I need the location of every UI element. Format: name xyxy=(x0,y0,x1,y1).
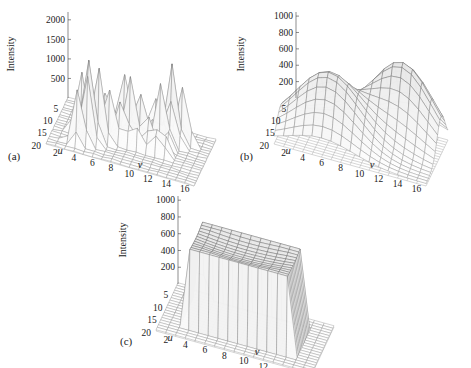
svg-text:Intensity: Intensity xyxy=(235,37,246,72)
svg-text:1000: 1000 xyxy=(46,54,65,64)
svg-text:2: 2 xyxy=(281,148,286,158)
svg-text:400: 400 xyxy=(279,60,294,70)
svg-text:4: 4 xyxy=(183,340,188,350)
svg-text:v: v xyxy=(370,159,375,170)
svg-text:u: u xyxy=(167,332,172,343)
svg-text:15: 15 xyxy=(37,128,47,138)
svg-text:10: 10 xyxy=(239,356,249,366)
svg-text:Intensity: Intensity xyxy=(117,223,128,258)
svg-text:20: 20 xyxy=(142,328,152,338)
svg-text:6: 6 xyxy=(319,158,324,168)
svg-text:6: 6 xyxy=(202,345,207,355)
panel-c-caption: (c) xyxy=(120,335,132,347)
svg-text:10: 10 xyxy=(125,169,135,179)
svg-text:6: 6 xyxy=(90,158,95,168)
svg-text:200: 200 xyxy=(279,77,294,87)
panel-b-caption: (b) xyxy=(240,150,253,162)
svg-text:1500: 1500 xyxy=(46,35,65,45)
svg-text:200: 200 xyxy=(161,262,176,272)
svg-text:20: 20 xyxy=(260,141,270,151)
panel-a-surface-plot: 500100015002000Intensity5101520u16141210… xyxy=(0,2,236,180)
svg-text:600: 600 xyxy=(279,44,294,54)
panel-a-caption: (a) xyxy=(8,150,20,162)
svg-text:1000: 1000 xyxy=(274,11,293,21)
svg-text:500: 500 xyxy=(51,74,66,84)
panel-a-svg: 500100015002000Intensity5101520u16141210… xyxy=(0,2,236,180)
svg-text:12: 12 xyxy=(143,174,153,184)
svg-text:4: 4 xyxy=(300,153,305,163)
svg-text:800: 800 xyxy=(161,212,176,222)
svg-text:14: 14 xyxy=(393,179,403,189)
figure-three-surface-plots: 500100015002000Intensity5101520u16141210… xyxy=(0,0,471,368)
svg-text:10: 10 xyxy=(153,303,163,313)
panel-c-surface-plot: 2004006008001000Intensity5101520u1614121… xyxy=(112,186,360,366)
svg-text:u: u xyxy=(285,145,290,156)
svg-text:v: v xyxy=(255,346,260,357)
svg-text:10: 10 xyxy=(355,169,365,179)
svg-text:2: 2 xyxy=(53,148,58,158)
svg-text:5: 5 xyxy=(282,104,287,114)
svg-text:400: 400 xyxy=(161,246,176,256)
svg-text:5: 5 xyxy=(54,104,59,114)
svg-text:2000: 2000 xyxy=(46,15,65,25)
svg-text:10: 10 xyxy=(43,116,53,126)
svg-text:1000: 1000 xyxy=(156,195,175,205)
svg-text:600: 600 xyxy=(161,229,176,239)
panel-c-svg: 2004006008001000Intensity5101520u1614121… xyxy=(112,186,360,366)
svg-text:Intensity: Intensity xyxy=(5,37,16,72)
svg-text:8: 8 xyxy=(108,163,113,173)
svg-text:8: 8 xyxy=(338,163,343,173)
svg-text:12: 12 xyxy=(259,362,269,368)
panel-b-surface-plot: 2004006008001000Intensity5101520u1614121… xyxy=(232,2,471,180)
svg-text:5: 5 xyxy=(164,290,169,300)
svg-text:12: 12 xyxy=(374,174,384,184)
svg-text:15: 15 xyxy=(265,128,275,138)
svg-text:u: u xyxy=(57,145,62,156)
svg-text:15: 15 xyxy=(147,315,157,325)
svg-text:10: 10 xyxy=(271,116,281,126)
svg-text:16: 16 xyxy=(412,184,422,194)
svg-text:4: 4 xyxy=(71,153,76,163)
svg-text:20: 20 xyxy=(32,141,42,151)
svg-text:2: 2 xyxy=(163,335,168,345)
svg-text:v: v xyxy=(138,159,143,170)
svg-text:800: 800 xyxy=(279,28,294,38)
panel-b-svg: 2004006008001000Intensity5101520u1614121… xyxy=(232,2,471,180)
svg-text:8: 8 xyxy=(222,351,227,361)
